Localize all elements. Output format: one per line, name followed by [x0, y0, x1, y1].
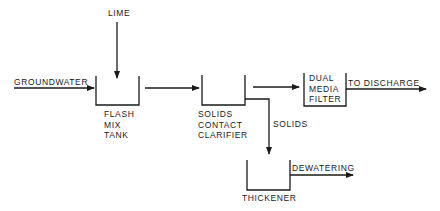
flow-diagram: [0, 0, 440, 211]
dual-media-filter-label: DUAL MEDIA FILTER: [309, 73, 341, 105]
clarifier-label: SOLIDS CONTACT CLARIFIER: [198, 109, 248, 141]
groundwater-label: GROUNDWATER: [14, 77, 88, 88]
flash-mix-tank-shape: [96, 76, 139, 105]
thickener-label: THICKENER: [242, 193, 297, 204]
dewatering-label: DEWATERING: [292, 163, 355, 174]
clarifier-shape: [202, 75, 245, 105]
thickener-shape: [247, 160, 290, 190]
solids-arrow: [245, 99, 269, 154]
discharge-label: TO DISCHARGE: [348, 78, 420, 89]
solids-label: SOLIDS: [273, 119, 308, 130]
lime-label: LIME: [108, 8, 130, 19]
flash-mix-tank-label: FLASH MIX TANK: [104, 109, 134, 141]
